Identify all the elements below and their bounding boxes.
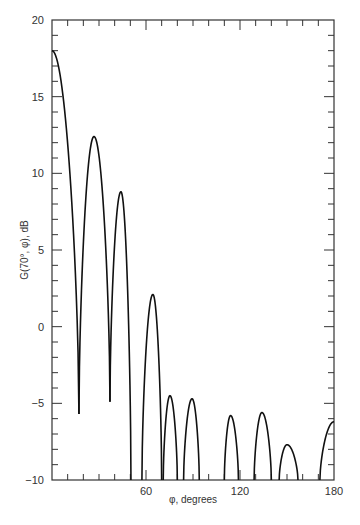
gain-lobe: [254, 413, 271, 480]
x-axis-label: φ, degrees: [169, 494, 217, 505]
x-tick-label: 60: [140, 485, 152, 497]
axis-ticks: [52, 20, 334, 480]
y-axis-label: G(70°, φ), dB: [19, 220, 30, 280]
y-tick-label: −5: [31, 397, 44, 409]
gain-lobe: [110, 192, 131, 480]
y-tick-label: 5: [38, 244, 44, 256]
gain-curve: [52, 51, 334, 480]
radiation-pattern-chart: −10−505101520 60120180 φ, degrees G(70°,…: [0, 0, 360, 525]
gain-lobe: [52, 51, 79, 414]
plot-frame: [52, 20, 334, 480]
gain-lobe: [79, 137, 110, 415]
y-tick-label: 10: [32, 167, 44, 179]
gain-lobe: [279, 445, 298, 480]
y-tick-label: −10: [25, 474, 44, 486]
y-tick-label: 0: [38, 321, 44, 333]
x-tick-label: 180: [325, 485, 343, 497]
y-tick-label: 20: [32, 14, 44, 26]
gain-lobe: [163, 396, 177, 480]
gain-lobe: [142, 294, 162, 480]
y-tick-label: 15: [32, 91, 44, 103]
gain-lobe: [320, 422, 334, 480]
x-tick-label: 120: [231, 485, 249, 497]
gain-lobe: [224, 416, 238, 480]
gain-lobe: [184, 399, 200, 480]
